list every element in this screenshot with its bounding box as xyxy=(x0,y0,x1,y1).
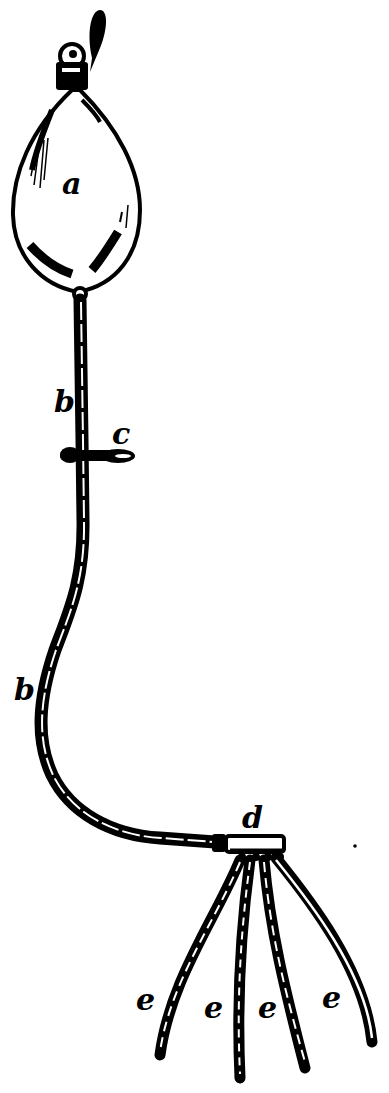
bulb-syringe-diagram: a b b c d xyxy=(0,0,389,1093)
label-nozzle-3: e xyxy=(258,990,277,1025)
speck xyxy=(353,844,357,848)
label-bulb: a xyxy=(62,166,81,201)
label-nozzle-1: e xyxy=(136,982,155,1017)
bulb-stopper xyxy=(56,10,106,90)
label-tube-lower: b xyxy=(14,672,35,707)
label-tube-upper: b xyxy=(54,384,75,419)
nozzle-2 xyxy=(239,860,250,1078)
label-clamp: c xyxy=(112,416,130,451)
label-nozzle-4: e xyxy=(322,980,341,1015)
nozzles xyxy=(160,858,372,1078)
nozzle-1 xyxy=(160,860,240,1055)
label-nozzle-2: e xyxy=(204,990,223,1025)
tube xyxy=(41,300,215,842)
label-manifold: d xyxy=(242,800,263,835)
